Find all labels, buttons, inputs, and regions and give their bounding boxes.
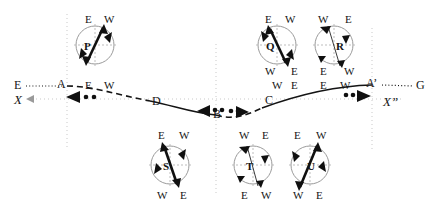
crest-label-W-left-A: W [104, 80, 114, 91]
node-label-A: A [57, 78, 66, 90]
motion-marker-right-B [229, 106, 249, 118]
circle-U-label-bot-right: E [316, 190, 323, 201]
ray-Aprime-G [382, 85, 414, 86]
circle-P-label-top-left: E [85, 14, 92, 25]
circle-P-label-top-right: W [104, 14, 114, 25]
ray-label-E: E [14, 79, 21, 91]
node-label-B: B [213, 108, 221, 120]
circle-Q-label-top-right: W [285, 14, 295, 25]
circle-T-label-top-left: W [239, 130, 249, 141]
circle-T-label-top-right: E [262, 130, 269, 141]
axis-left-label: X [14, 93, 22, 106]
node-label-C: C [265, 94, 273, 106]
motion-marker-left-A [66, 91, 96, 103]
circle-S-label-bot-left: W [157, 190, 167, 201]
crest-label-E-left-A: E [85, 80, 92, 91]
gridlines [67, 14, 372, 196]
circle-Q-label-top-left: E [265, 14, 272, 25]
circle-S-label-top-left: E [158, 130, 165, 141]
circle-U-label-bot-left: W [293, 190, 303, 201]
circle-S-label-top-right: W [179, 130, 189, 141]
circle-label-R: R [336, 41, 344, 52]
ray-label-G: G [416, 79, 425, 91]
crest-label-E-near-C: E [291, 80, 298, 91]
motion-marker-right-Aprime [344, 90, 371, 102]
circle-label-S: S [163, 161, 169, 172]
crest-label-E-near-Ap: E [320, 80, 327, 91]
circle-T-label-bot-left: E [241, 190, 248, 201]
circle-S-label-bot-right: E [180, 190, 187, 201]
circle-label-T: T [246, 161, 253, 172]
circle-label-Q: Q [266, 41, 275, 52]
node-label-Aprime: A’ [366, 77, 377, 89]
circle-R-label-bot-left: E [320, 66, 327, 77]
circle-P [74, 24, 116, 66]
circle-R [313, 24, 355, 68]
circle-Q [256, 24, 298, 67]
circle-T-label-bot-right: W [261, 190, 271, 201]
wave-diagram-svg: .grid-v { stroke:#c9c9c9; stroke-width:1… [0, 0, 434, 211]
crest-label-W-near-Ap: W [340, 80, 350, 91]
circle-U-label-top-left: E [294, 130, 301, 141]
axis-left-arrowhead [26, 95, 34, 103]
circle-Q-label-bot-right: E [291, 66, 298, 77]
node-label-D: D [152, 95, 161, 107]
circle-label-P: P [84, 41, 91, 52]
circle-Q-label-bot-left: W [265, 66, 275, 77]
circle-R-label-top-left: W [318, 14, 328, 25]
diagram-canvas: .grid-v { stroke:#c9c9c9; stroke-width:1… [0, 0, 434, 211]
circle-U-label-top-right: W [316, 130, 326, 141]
circle-R-label-top-right: E [345, 14, 352, 25]
circle-R-label-bot-right: W [344, 66, 354, 77]
crest-label-W-near-C: W [272, 80, 282, 91]
circle-S [149, 142, 191, 188]
circle-label-U: U [307, 161, 315, 172]
axis-right-label: X” [383, 95, 398, 108]
